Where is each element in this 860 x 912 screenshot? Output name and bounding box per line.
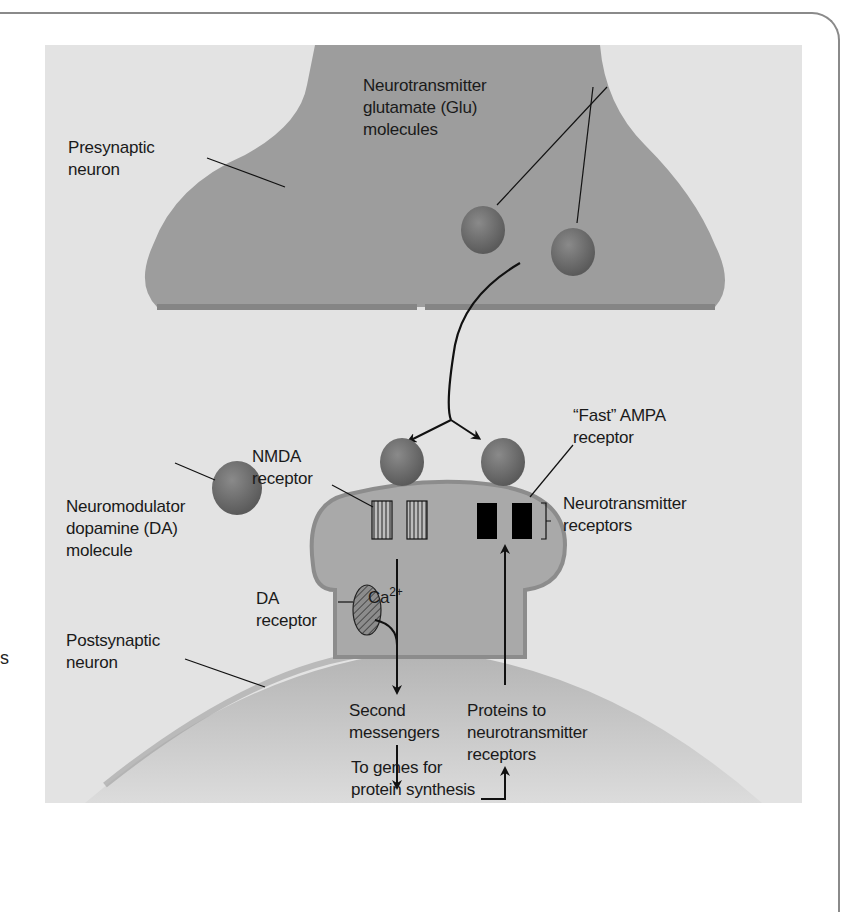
dopamine-leader-line — [175, 463, 215, 480]
ampa-receptor-2 — [512, 503, 532, 539]
label-ampa-receptor: “Fast” AMPAreceptor — [573, 405, 666, 449]
label-da-receptor: DAreceptor — [256, 588, 317, 632]
synapse-diagram-graphic — [45, 45, 802, 803]
cleft-glutamate-1 — [380, 438, 424, 486]
label-postsynaptic-neuron: Postsynapticneuron — [66, 630, 160, 674]
label-dopamine-molecule: Neuromodulatordopamine (DA)molecule — [66, 496, 185, 562]
glutamate-molecule-2 — [551, 228, 595, 276]
ampa-receptor-1 — [477, 503, 497, 539]
margin-text-fragment: s — [0, 648, 9, 669]
label-glutamate-molecules: Neurotransmitterglutamate (Glu)molecules — [363, 75, 486, 141]
label-presynaptic-neuron: Presynapticneuron — [68, 137, 155, 181]
label-nmda-receptor: NMDAreceptor — [252, 446, 313, 490]
label-genes-protein-synthesis: To genes forprotein synthesis — [351, 757, 475, 801]
label-proteins-to-receptors: Proteins toneurotransmitterreceptors — [467, 700, 588, 766]
cleft-glutamate-2 — [481, 438, 525, 486]
postsynaptic-leader-line — [185, 659, 265, 687]
ampa-leader-line — [530, 445, 573, 497]
glutamate-molecule-1 — [461, 206, 505, 254]
label-calcium: Ca2+ — [368, 581, 403, 609]
label-second-messengers: Secondmessengers — [349, 700, 440, 744]
nmda-receptor-2 — [407, 501, 427, 539]
nmda-receptor-1 — [372, 501, 392, 539]
synapse-figure-panel: Presynapticneuron Neurotransmitterglutam… — [45, 45, 802, 803]
label-neurotransmitter-receptors: Neurotransmitterreceptors — [563, 493, 686, 537]
